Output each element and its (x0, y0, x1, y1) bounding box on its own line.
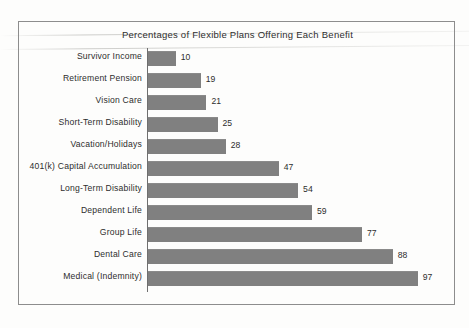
bar-value-label: 97 (423, 272, 433, 282)
bar (148, 73, 201, 88)
bar-row: Retirement Pension19 (19, 70, 456, 92)
bar-rows: Survivor Income10Retirement Pension19Vis… (19, 48, 456, 290)
bar (148, 51, 176, 66)
bar-row: Long-Term Disability54 (19, 180, 456, 202)
bar (148, 205, 312, 220)
bar-category-label: Dependent Life (81, 205, 142, 215)
bar-value-label: 21 (211, 96, 221, 106)
bar-row: Survivor Income10 (19, 48, 456, 70)
chart-title: Percentages of Flexible Plans Offering E… (19, 29, 456, 40)
bar-value-label: 88 (398, 250, 408, 260)
bar-category-label: Vacation/Holidays (70, 139, 142, 149)
bar (148, 227, 362, 242)
bar-value-label: 77 (367, 228, 377, 238)
bar (148, 249, 393, 264)
bar-row: Short-Term Disability25 (19, 114, 456, 136)
chart-frame: Percentages of Flexible Plans Offering E… (18, 21, 455, 305)
bar-category-label: Vision Care (96, 95, 142, 105)
bar (148, 161, 279, 176)
bar-value-label: 47 (284, 162, 294, 172)
bar-row: Dental Care88 (19, 246, 456, 268)
plot-area: Survivor Income10Retirement Pension19Vis… (19, 48, 456, 298)
bar (148, 271, 418, 286)
bar-category-label: Dental Care (94, 249, 142, 259)
bar (148, 117, 218, 132)
bar-category-label: Long-Term Disability (60, 183, 142, 193)
bar (148, 183, 298, 198)
bar-category-label: Survivor Income (77, 51, 142, 61)
bar-row: Dependent Life59 (19, 202, 456, 224)
bar (148, 95, 206, 110)
bar-value-label: 25 (223, 118, 233, 128)
bar-row: Vision Care21 (19, 92, 456, 114)
bar-value-label: 10 (181, 52, 191, 62)
bar-row: Medical (Indemnity)97 (19, 268, 456, 290)
bar-row: 401(k) Capital Accumulation47 (19, 158, 456, 180)
bar-category-label: 401(k) Capital Accumulation (30, 161, 142, 171)
bar-value-label: 28 (231, 140, 241, 150)
bar-value-label: 59 (317, 206, 327, 216)
bar (148, 139, 226, 154)
bar-category-label: Retirement Pension (63, 73, 142, 83)
bar-row: Group Life77 (19, 224, 456, 246)
bar-category-label: Group Life (100, 227, 142, 237)
bar-category-label: Medical (Indemnity) (63, 271, 142, 281)
bar-category-label: Short-Term Disability (59, 117, 142, 127)
bar-value-label: 54 (303, 184, 313, 194)
bar-row: Vacation/Holidays28 (19, 136, 456, 158)
bar-value-label: 19 (206, 74, 216, 84)
